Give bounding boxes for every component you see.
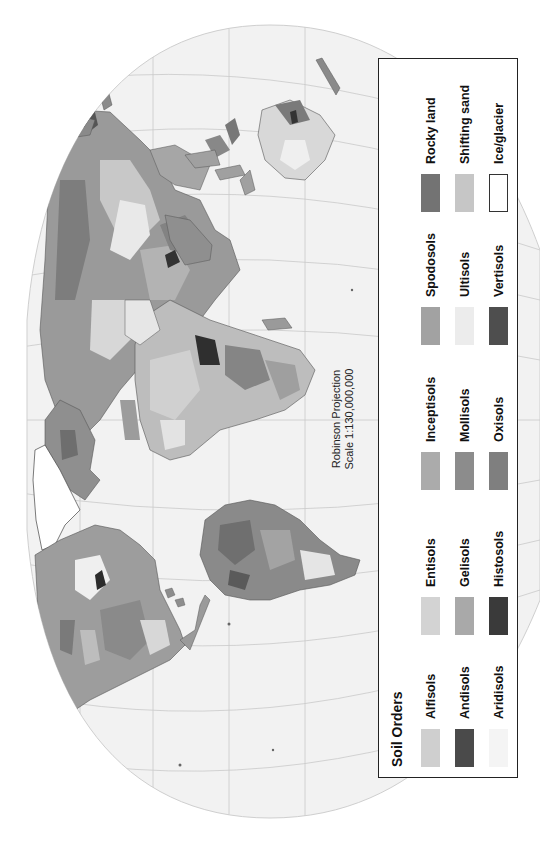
legend-label: Alfisols [424,674,438,719]
legend-label: Spodosols [424,233,438,297]
swatch-andisols [455,729,474,767]
legend-label: Gelisols [458,538,472,587]
swatch-rocky-land [421,174,440,212]
swatch-aridisols [489,729,508,767]
legend-item-ice-glacier: Ice/glacier [489,103,508,212]
swatch-oxisols [489,452,508,490]
legend-item-inceptisols: Inceptisols [421,377,440,490]
legend-item-histosols: Histosols [489,531,508,635]
legend-item-alfisols: Alfisols [421,674,440,767]
swatch-gelisols [455,597,474,635]
swatch-shifting-sand [455,174,474,212]
projection-label: Robinson Projection [330,364,343,474]
legend-label: Ultisols [458,252,472,297]
legend-item-vertisols: Vertisols [489,245,508,345]
legend-item-ultisols: Ultisols [455,252,474,345]
legend-item-andisols: Andisols [455,666,474,767]
legend-label: Rocky land [424,97,438,164]
legend-title: Soil Orders [389,692,405,767]
legend-item-aridisols: Aridisols [489,666,508,768]
legend-item-entisols: Entisols [421,538,440,635]
legend-item-spodosols: Spodosols [421,233,440,345]
legend-label: Histosols [492,531,506,587]
swatch-vertisols [489,307,508,345]
legend-label: Oxisols [492,397,506,442]
swatch-entisols [421,597,440,635]
legend-label: Entisols [424,538,438,587]
legend-item-mollisols: Mollisols [455,389,474,490]
legend-label: Andisols [458,666,472,719]
legend-item-shifting-sand: Shifting sand [455,85,474,212]
legend-label: Shifting sand [458,85,472,164]
legend-item-oxisols: Oxisols [489,397,508,490]
legend-item-rocky-land: Rocky land [421,97,440,212]
swatch-histosols [489,597,508,635]
swatch-spodosols [421,307,440,345]
scale-label: Scale 1:130,000,000 [343,364,356,474]
swatch-mollisols [455,452,474,490]
swatch-ultisols [455,307,474,345]
legend-label: Ice/glacier [492,103,506,164]
swatch-inceptisols [421,452,440,490]
legend-label: Vertisols [492,245,506,297]
legend-label: Mollisols [458,389,472,442]
swatch-ice-glacier [489,174,508,212]
legend: Soil Orders Alfisols Andisols Aridisols … [378,58,518,778]
legend-item-gelisols: Gelisols [455,538,474,635]
projection-caption: Robinson Projection Scale 1:130,000,000 [330,364,356,474]
legend-label: Inceptisols [424,377,438,442]
swatch-alfisols [421,729,440,767]
legend-label: Aridisols [492,666,506,720]
